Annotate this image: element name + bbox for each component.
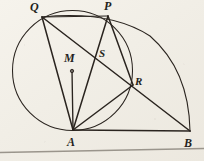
segment-QB bbox=[42, 17, 190, 131]
vertex-label-S: S bbox=[99, 48, 105, 59]
page-rule-line bbox=[0, 149, 204, 153]
segment-QA bbox=[42, 17, 73, 130]
segment-MA bbox=[72, 70, 73, 130]
segment-PA bbox=[73, 16, 108, 130]
vertex-label-R: R bbox=[135, 76, 142, 87]
segment-AB bbox=[73, 130, 190, 131]
vertex-label-M: M bbox=[64, 52, 75, 64]
figure-page: Q P S M R A B bbox=[0, 0, 204, 161]
vertex-label-A: A bbox=[67, 136, 75, 148]
segment-RA bbox=[73, 85, 133, 130]
vertex-label-Q: Q bbox=[30, 1, 39, 13]
vertex-label-P: P bbox=[104, 0, 111, 12]
vertex-label-B: B bbox=[184, 137, 192, 149]
geometry-figure bbox=[0, 0, 204, 161]
